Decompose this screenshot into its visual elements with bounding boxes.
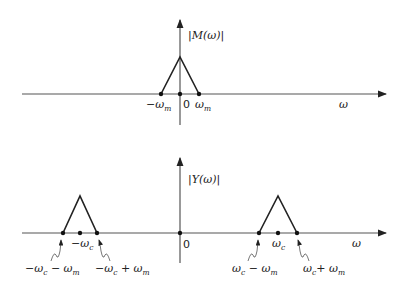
spectrum-diagram: |M(ω)| ω −ωm 0 ωm |Y(ω)| ω 0 −ωc ωc −ωc … xyxy=(0,0,398,294)
top-xlabel: ω xyxy=(339,98,348,111)
tick-dot xyxy=(295,231,299,235)
top-plot: |M(ω)| ω −ωm 0 ωm xyxy=(22,20,386,125)
tick-neg-wc: −ωc xyxy=(71,237,94,252)
tick-dot xyxy=(78,231,82,235)
bottom-plot: |Y(ω)| ω 0 −ωc ωc −ωc − ωm −ωc + ωm ωc −… xyxy=(22,158,386,277)
left-triangle-spectrum xyxy=(63,196,97,233)
tick-dot xyxy=(178,231,182,235)
tick-wm: ωm xyxy=(195,98,211,113)
pointer-squiggle xyxy=(298,240,309,261)
bottom-ylabel: |Y(ω)| xyxy=(188,173,220,186)
tick-dot xyxy=(178,92,182,96)
top-ylabel: |M(ω)| xyxy=(188,29,224,42)
tick-dot xyxy=(197,92,201,96)
label-wc-plus-wm: ωc+ ωm xyxy=(303,262,345,277)
tick-dot xyxy=(257,231,261,235)
label-neg-wc-plus-wm: −ωc + ωm xyxy=(95,262,150,277)
tick-neg-wm: −ωm xyxy=(146,98,171,113)
tick-zero: 0 xyxy=(183,98,190,111)
tick-dot xyxy=(159,92,163,96)
bottom-origin: 0 xyxy=(183,238,190,251)
tick-wc: ωc xyxy=(272,237,286,252)
tick-dot xyxy=(61,231,65,235)
pointer-squiggle xyxy=(248,240,258,261)
pointer-squiggle xyxy=(99,240,110,261)
tick-dot xyxy=(276,231,280,235)
label-wc-minus-wm: ωc − ωm xyxy=(232,262,278,277)
bottom-xlabel: ω xyxy=(352,237,361,250)
pointer-squiggle xyxy=(51,240,61,261)
right-triangle-spectrum xyxy=(259,196,297,233)
label-neg-wc-minus-wm: −ωc − ωm xyxy=(25,262,80,277)
tick-dot xyxy=(95,231,99,235)
